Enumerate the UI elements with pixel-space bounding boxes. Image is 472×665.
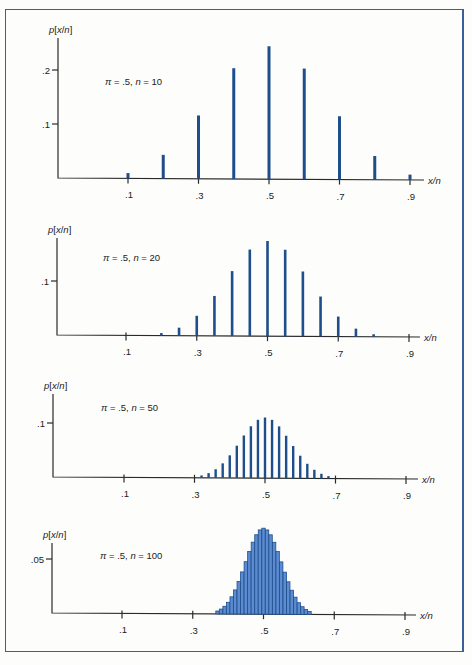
y-axis-label: p[x/n] — [42, 529, 66, 540]
y-tick-label: .1 — [37, 418, 45, 429]
probability-bar — [299, 456, 301, 479]
x-axis-label: x/n — [427, 175, 441, 186]
x-tick-label: .1 — [119, 624, 127, 635]
probability-bar — [195, 316, 198, 336]
probability-bar — [236, 446, 238, 478]
probability-bar — [290, 590, 293, 614]
x-tick-label: .7 — [333, 490, 341, 501]
y-axis-label: p[x/n] — [43, 380, 67, 391]
x-tick-label: .9 — [407, 191, 415, 202]
probability-bar — [278, 426, 280, 478]
probability-bar — [250, 426, 252, 478]
x-tick-label: .3 — [192, 489, 200, 500]
probability-bar — [243, 435, 245, 478]
probability-bar — [219, 609, 222, 614]
parameter-annotation: π = .5, n = 10 — [105, 76, 162, 87]
probability-bar — [279, 562, 282, 614]
probability-bar — [127, 173, 130, 178]
probability-bar — [271, 420, 273, 478]
probability-bar — [327, 476, 329, 478]
probability-bar — [200, 475, 202, 477]
x-tick-label: .5 — [266, 190, 274, 201]
probability-bar — [268, 46, 271, 179]
panel-n-20: p[x/n]x/n.1.3.5.7.9.1π = .5, n = 20 — [41, 224, 437, 359]
probability-bar — [229, 455, 231, 478]
probability-bar — [255, 535, 258, 614]
x-tick-label: .7 — [335, 348, 343, 359]
probability-bar — [248, 551, 251, 614]
probability-bar — [222, 463, 224, 478]
x-axis-label: x/n — [421, 474, 435, 485]
probability-bar — [264, 418, 266, 479]
probability-bar — [266, 241, 269, 336]
probability-bar — [178, 328, 181, 336]
probability-bar — [297, 603, 300, 615]
axes — [58, 38, 424, 180]
x-tick-label: .5 — [261, 625, 269, 636]
probability-bar — [284, 250, 287, 337]
probability-bar — [265, 530, 268, 614]
x-tick-label: .1 — [123, 346, 131, 357]
probability-bar — [241, 572, 244, 614]
panel-n-50: p[x/n]x/n.1.3.5.7.9.1π = .5, n = 50 — [37, 380, 435, 501]
probability-bar — [306, 464, 308, 479]
x-tick-label: .9 — [403, 490, 411, 501]
y-tick-label: .1 — [42, 119, 50, 130]
x-tick-label: .3 — [190, 625, 198, 636]
panel-n-10: p[x/n]x/n.1.3.5.7.9.1.2π = .5, n = 10 — [42, 24, 441, 202]
x-tick-label: .1 — [125, 189, 133, 200]
probability-bar — [292, 446, 294, 478]
binomial-distribution-figure: p[x/n]x/n.1.3.5.7.9.1.2π = .5, n = 10p[x… — [0, 0, 472, 665]
parameter-annotation: π = .5, n = 20 — [103, 252, 160, 263]
x-tick-label: .9 — [406, 348, 414, 359]
probability-bar — [302, 272, 305, 337]
x-tick-label: .7 — [337, 191, 345, 202]
y-axis-label: p[x/n] — [48, 24, 72, 35]
probability-bar — [249, 250, 252, 337]
probability-bar — [283, 572, 286, 614]
probability-bar — [234, 590, 237, 614]
x-tick-label: .5 — [262, 489, 270, 500]
probability-bar — [303, 69, 306, 180]
probability-bar — [269, 535, 272, 614]
parameter-annotation: π = .5, n = 50 — [101, 402, 158, 413]
probability-bar — [232, 68, 235, 179]
probability-bar — [372, 334, 375, 336]
y-tick-label: .2 — [42, 65, 50, 76]
panel-n-100: p[x/n]x/n.1.3.5.7.9.05π = .5, n = 100 — [31, 528, 433, 637]
probability-bar — [313, 470, 315, 479]
x-tick-label: .7 — [331, 626, 339, 637]
probability-bar — [251, 542, 254, 614]
probability-bar — [301, 607, 304, 615]
probability-bar — [308, 611, 311, 614]
probability-bar — [160, 333, 163, 335]
x-axis-label: x/n — [423, 332, 437, 343]
probability-bar — [337, 317, 340, 337]
x-axis-label: x/n — [419, 610, 433, 621]
probability-bar — [226, 602, 229, 614]
probability-bar — [197, 115, 200, 178]
y-axis-label: p[x/n] — [47, 224, 71, 235]
probability-bar — [162, 155, 165, 179]
probability-bar — [272, 542, 275, 614]
probability-bar — [213, 296, 216, 336]
probability-bar — [287, 582, 290, 615]
probability-bar — [244, 562, 247, 614]
probability-bar — [258, 530, 261, 614]
probability-bar — [214, 469, 216, 478]
probability-bar — [216, 611, 219, 614]
y-tick-label: .05 — [31, 554, 44, 565]
y-tick-label: .1 — [41, 276, 49, 287]
parameter-annotation: π = .5, n = 100 — [100, 550, 162, 561]
probability-bar — [257, 420, 259, 478]
probability-bar — [231, 271, 234, 336]
probability-bar — [319, 297, 322, 337]
probability-bar — [223, 606, 226, 614]
probability-bar — [294, 597, 297, 614]
probability-bar — [355, 329, 358, 337]
x-tick-label: .1 — [121, 488, 129, 499]
probability-bar — [373, 156, 376, 180]
x-tick-label: .9 — [402, 626, 410, 637]
x-tick-label: .3 — [194, 347, 202, 358]
probability-bar — [276, 552, 279, 615]
